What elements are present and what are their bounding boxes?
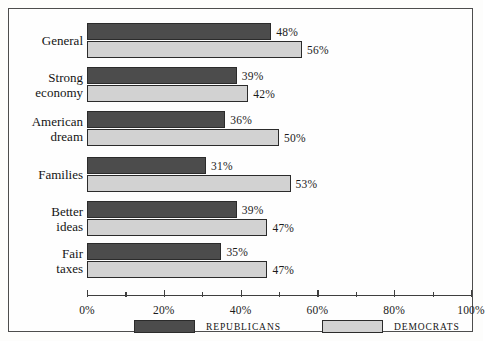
bar-value-label: 50% bbox=[284, 131, 306, 143]
category-label-line: Families bbox=[17, 167, 83, 182]
bar-republicans-families bbox=[87, 157, 206, 174]
chart-frame: GeneralStrongeconomyAmericandreamFamilie… bbox=[8, 8, 473, 332]
bar-value-label: 39% bbox=[242, 203, 264, 215]
x-tick-label: 20% bbox=[153, 304, 175, 316]
bar-value-label: 36% bbox=[230, 113, 252, 125]
category-label-line: American bbox=[17, 114, 83, 129]
legend-item-republicans: REPUBLICANS bbox=[134, 319, 281, 334]
bar-value-label: 48% bbox=[276, 25, 298, 37]
bar-republicans-fair-taxes bbox=[87, 243, 221, 260]
category-axis-labels: GeneralStrongeconomyAmericandreamFamilie… bbox=[15, 23, 83, 291]
legend-label: DEMOCRATS bbox=[394, 322, 460, 332]
bar-democrats-fair-taxes bbox=[87, 261, 267, 278]
bar-democrats-general bbox=[87, 41, 302, 58]
category-label-general: General bbox=[17, 33, 83, 48]
x-tick-minor bbox=[356, 292, 357, 297]
x-tick-minor bbox=[202, 292, 203, 297]
x-tick-major bbox=[87, 290, 88, 297]
category-label-better-ideas: Betterideas bbox=[17, 204, 83, 234]
category-label-line: Strong bbox=[17, 70, 83, 85]
category-label-american-dream: Americandream bbox=[17, 114, 83, 144]
legend-item-democrats: DEMOCRATS bbox=[322, 319, 460, 334]
category-label-line: Fair bbox=[17, 246, 83, 261]
x-tick-label: 80% bbox=[383, 304, 405, 316]
category-label-strong-economy: Strongeconomy bbox=[17, 70, 83, 100]
x-tick-minor bbox=[279, 292, 280, 297]
x-tick-major bbox=[241, 290, 242, 297]
bar-value-label: 53% bbox=[296, 177, 318, 189]
x-tick-major bbox=[471, 290, 472, 297]
chart-legend: REPUBLICANSDEMOCRATS bbox=[87, 319, 471, 335]
category-label-fair-taxes: Fairtaxes bbox=[17, 246, 83, 276]
x-tick-label: 40% bbox=[230, 304, 252, 316]
bar-democrats-american-dream bbox=[87, 129, 279, 146]
bar-value-label: 42% bbox=[253, 87, 275, 99]
bar-republicans-better-ideas bbox=[87, 201, 237, 218]
category-label-line: dream bbox=[17, 129, 83, 144]
bar-value-label: 31% bbox=[211, 159, 233, 171]
category-label-line: economy bbox=[17, 85, 83, 100]
x-tick-major bbox=[394, 290, 395, 297]
category-label-families: Families bbox=[17, 167, 83, 182]
bar-republicans-american-dream bbox=[87, 111, 225, 128]
category-label-line: taxes bbox=[17, 261, 83, 276]
x-tick-label: 60% bbox=[307, 304, 329, 316]
category-label-line: General bbox=[17, 33, 83, 48]
x-tick-major bbox=[317, 290, 318, 297]
bar-republicans-strong-economy bbox=[87, 67, 237, 84]
bar-democrats-families bbox=[87, 175, 291, 192]
category-label-line: ideas bbox=[17, 219, 83, 234]
plot-area: 48%56%39%42%36%50%31%53%39%47%35%47% bbox=[87, 23, 471, 291]
legend-label: REPUBLICANS bbox=[206, 322, 281, 332]
x-tick-label: 0% bbox=[79, 304, 95, 316]
legend-swatch bbox=[322, 320, 383, 333]
x-tick-minor bbox=[125, 292, 126, 297]
bar-value-label: 47% bbox=[272, 221, 294, 233]
bar-value-label: 56% bbox=[307, 43, 329, 55]
x-tick-minor bbox=[433, 292, 434, 297]
bar-democrats-strong-economy bbox=[87, 85, 248, 102]
bar-value-label: 35% bbox=[226, 245, 248, 257]
bar-value-label: 47% bbox=[272, 263, 294, 275]
x-axis: 0%20%40%60%80%100% bbox=[87, 295, 471, 297]
category-label-line: Better bbox=[17, 204, 83, 219]
x-tick-label: 100% bbox=[457, 304, 485, 316]
legend-swatch bbox=[134, 320, 195, 333]
x-tick-major bbox=[164, 290, 165, 297]
bar-republicans-general bbox=[87, 23, 271, 40]
bar-democrats-better-ideas bbox=[87, 219, 267, 236]
bar-value-label: 39% bbox=[242, 69, 264, 81]
